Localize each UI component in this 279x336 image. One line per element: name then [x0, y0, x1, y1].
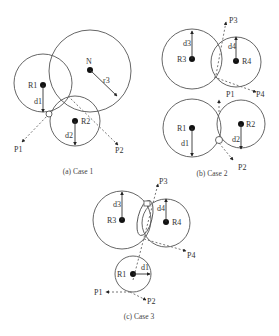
label-p4-c: P4 [187, 251, 195, 260]
case1-panel: N r3 R1 d1 R2 d2 P1 P2 (a) Case 1 [14, 30, 131, 176]
caption-case3: (c) Case 3 [124, 312, 155, 321]
label-p1-b: P1 [226, 90, 234, 99]
label-d3: d3 [183, 39, 191, 48]
label-r2: R2 [81, 117, 90, 126]
label-r4-c: R4 [172, 218, 181, 227]
label-d3-c: d3 [113, 200, 121, 209]
estimate-point-marker [46, 111, 52, 117]
label-r2-b: R2 [246, 120, 255, 129]
label-p4: P4 [256, 90, 264, 99]
estimate-point-marker-b [216, 137, 223, 144]
label-p1-c: P1 [94, 288, 102, 297]
label-d4: d4 [228, 42, 236, 51]
diagram-canvas: N r3 R1 d1 R2 d2 P1 P2 (a) Case 1 R3 d3 … [0, 0, 279, 336]
p2-dashed-arrow-c [130, 292, 146, 300]
label-d1: d1 [34, 97, 42, 106]
label-d1-b: d1 [181, 139, 189, 148]
p4-dashed-arrow [214, 77, 256, 92]
label-p2-c: P2 [147, 297, 155, 306]
label-d1-c: d1 [141, 263, 149, 272]
label-r3-c: R3 [107, 216, 116, 225]
label-d2-b: d2 [232, 135, 240, 144]
label-d2: d2 [65, 131, 73, 140]
label-p2: P2 [115, 146, 123, 155]
label-n: N [86, 57, 92, 66]
label-r1: R1 [28, 81, 37, 90]
label-r3: R3 [177, 55, 186, 64]
label-d4-c: d4 [157, 204, 165, 213]
label-r4: R4 [242, 57, 251, 66]
label-r3: r3 [103, 76, 110, 85]
caption-case2: (b) Case 2 [197, 169, 228, 178]
label-p3: P3 [229, 16, 237, 25]
case2-panel: R3 d3 R4 d4 P3 P4 R1 d1 R2 d2 P1 P2 (b) … [162, 16, 265, 178]
case3-panel: R3 d3 R4 d4 P3 P4 R1 d1 P1 P2 (c) Case 3 [93, 177, 195, 321]
label-p2-b: P2 [238, 163, 246, 172]
caption-case1: (a) Case 1 [63, 167, 94, 176]
p1-dashed-arrow [22, 114, 49, 142]
label-p1: P1 [14, 145, 22, 154]
top-intersection-marker [144, 201, 150, 206]
label-r1-b: R1 [177, 124, 186, 133]
label-p3-c: P3 [159, 177, 167, 186]
label-r1-c: R1 [117, 270, 126, 279]
